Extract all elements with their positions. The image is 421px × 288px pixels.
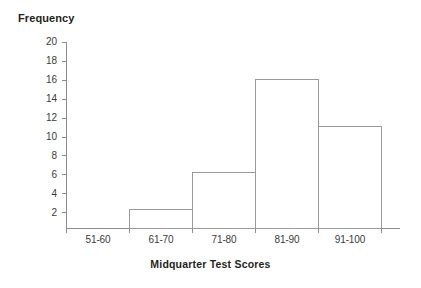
- x-axis-title: Midquarter Test Scores: [0, 258, 421, 270]
- y-tick-label-16: 16: [33, 74, 57, 85]
- x-tick-label-71-80: 71-80: [189, 234, 259, 245]
- y-tick-label-20: 20: [33, 36, 57, 47]
- y-tick-marks: [62, 43, 67, 213]
- x-tick-label-91-100: 91-100: [315, 234, 385, 245]
- histogram-chart: Frequency: [0, 0, 421, 288]
- y-tick-label-10: 10: [33, 131, 57, 142]
- bar-71-80: [193, 173, 256, 229]
- x-tick-label-51-60: 51-60: [63, 234, 133, 245]
- bar-81-90: [256, 80, 319, 229]
- bar-91-100: [319, 126, 382, 228]
- y-tick-label-6: 6: [33, 169, 57, 180]
- y-tick-label-8: 8: [33, 150, 57, 161]
- x-tick-marks: [67, 229, 382, 234]
- y-tick-label-18: 18: [33, 55, 57, 66]
- y-tick-label-4: 4: [33, 188, 57, 199]
- x-tick-label-61-70: 61-70: [126, 234, 196, 245]
- y-tick-label-2: 2: [33, 207, 57, 218]
- y-tick-label-12: 12: [33, 112, 57, 123]
- bar-61-70: [130, 210, 193, 229]
- y-tick-label-14: 14: [33, 93, 57, 104]
- x-tick-label-81-90: 81-90: [252, 234, 322, 245]
